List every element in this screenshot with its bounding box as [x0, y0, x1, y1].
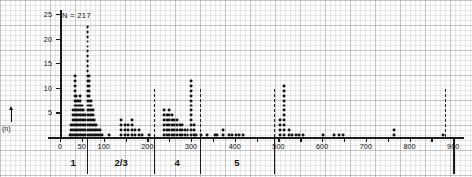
- data-dot: [127, 124, 130, 127]
- data-dot: [282, 94, 285, 97]
- data-dot: [148, 134, 151, 137]
- data-dot: [86, 25, 89, 28]
- group-separator-dashed: [274, 89, 275, 137]
- data-dot: [216, 134, 219, 137]
- data-dot: [130, 129, 133, 132]
- group-label-1: 1: [70, 157, 75, 168]
- data-dot: [88, 94, 91, 97]
- x-axis-tick: [344, 138, 345, 142]
- data-dot: [91, 114, 94, 117]
- data-dot: [86, 40, 89, 43]
- data-dot: [123, 134, 126, 137]
- y-axis-tick: [56, 112, 60, 113]
- data-dot: [176, 119, 179, 122]
- data-dot: [282, 84, 285, 87]
- data-dot: [241, 134, 244, 137]
- data-dot: [282, 134, 285, 137]
- y-axis-tick: [56, 88, 60, 89]
- data-dot: [282, 129, 285, 132]
- data-dot: [86, 70, 89, 73]
- data-dot: [337, 134, 340, 137]
- data-dot: [291, 134, 294, 137]
- data-dot: [100, 134, 103, 137]
- data-dot: [295, 134, 298, 137]
- data-dot: [195, 134, 198, 137]
- group-separator-solid: [274, 138, 275, 174]
- group-separator-dashed: [445, 89, 446, 137]
- group-label-4: 4: [174, 157, 179, 168]
- data-dot: [82, 109, 85, 112]
- x-axis-tick-label: 800: [403, 142, 415, 151]
- data-dot: [190, 99, 193, 102]
- group-separator-solid: [154, 138, 155, 174]
- data-dot: [88, 89, 91, 92]
- data-dot: [86, 55, 89, 58]
- y-axis-tick-label: 10: [2, 83, 52, 92]
- data-dot: [86, 45, 89, 48]
- data-dot: [301, 134, 304, 137]
- group-separator-dashed: [200, 89, 201, 137]
- data-dot: [86, 65, 89, 68]
- data-dot: [234, 134, 237, 137]
- x-axis-tick-label: 0: [58, 142, 62, 151]
- data-dot: [279, 119, 282, 122]
- x-axis-tick: [213, 138, 214, 142]
- y-axis-line: [60, 10, 62, 137]
- y-axis-arrow-head-icon: [9, 106, 13, 110]
- dot-histogram-figure: 5101520250501002003004005006007008009001…: [0, 0, 472, 177]
- data-dot: [231, 134, 234, 137]
- data-dot: [222, 134, 225, 137]
- y-axis-tick: [56, 14, 60, 15]
- x-axis-tick: [300, 138, 301, 142]
- data-dot: [392, 134, 395, 137]
- y-axis-tick-label: 25: [2, 10, 52, 19]
- data-dot: [95, 124, 98, 127]
- data-dot: [90, 104, 93, 107]
- data-dot: [141, 134, 144, 137]
- group-separator-solid: [453, 138, 454, 174]
- x-axis-tick: [126, 138, 127, 142]
- data-dot: [107, 134, 110, 137]
- data-dot: [282, 114, 285, 117]
- data-dot: [190, 114, 193, 117]
- data-dot: [190, 119, 193, 122]
- data-dot: [279, 134, 282, 137]
- x-axis-tick: [431, 138, 432, 142]
- data-dot: [127, 129, 130, 132]
- x-axis-tick-label: 100: [98, 142, 110, 151]
- data-dot: [120, 119, 123, 122]
- data-dot: [190, 89, 193, 92]
- data-dot: [79, 94, 82, 97]
- x-axis-tick-label: 700: [360, 142, 372, 151]
- data-dot: [98, 129, 101, 132]
- data-dot: [88, 79, 91, 82]
- data-dot: [86, 35, 89, 38]
- data-dot: [227, 134, 230, 137]
- data-dot: [282, 119, 285, 122]
- data-dot: [190, 109, 193, 112]
- data-dot: [190, 79, 193, 82]
- data-dot: [186, 134, 189, 137]
- y-axis-arrow-icon: [11, 109, 12, 122]
- data-dot: [282, 104, 285, 107]
- data-dot: [199, 134, 202, 137]
- data-dot: [170, 114, 173, 117]
- data-dot: [86, 60, 89, 63]
- data-dot: [123, 129, 126, 132]
- data-dot: [120, 124, 123, 127]
- x-axis-tick-label: 300: [185, 142, 197, 151]
- data-dot: [192, 124, 195, 127]
- x-axis-tick: [169, 138, 170, 142]
- data-dot: [322, 134, 325, 137]
- data-dot: [134, 129, 137, 132]
- group-separator-dashed: [154, 89, 155, 137]
- data-dot: [90, 99, 93, 102]
- data-dot: [298, 134, 301, 137]
- data-dot: [73, 84, 76, 87]
- data-dot: [80, 104, 83, 107]
- data-dot: [222, 129, 225, 132]
- x-axis-tick-label: 600: [316, 142, 328, 151]
- data-dot: [75, 94, 78, 97]
- data-dot: [342, 134, 345, 137]
- y-axis-title: (n): [2, 125, 11, 132]
